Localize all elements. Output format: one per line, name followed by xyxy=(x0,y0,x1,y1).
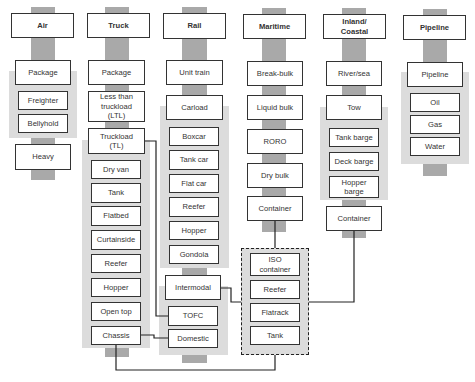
mode-header-truck: Truck xyxy=(87,13,150,38)
mode-header-inland-coastal: Inland/ Coastal xyxy=(323,14,386,39)
maritime-dry-bulk: Dry bulk xyxy=(247,163,303,188)
rail-domestic: Domestic xyxy=(168,329,218,348)
pipeline-oil: Oil xyxy=(410,93,460,112)
rail-reefer: Reefer xyxy=(169,197,219,217)
maritime-container: Container xyxy=(247,196,303,221)
truck-hopper: Hopper xyxy=(91,278,141,297)
group-iso-container: ISO container xyxy=(250,253,300,276)
truck-dry-van: Dry van xyxy=(91,160,141,179)
group-tank: Tank xyxy=(250,326,300,345)
inland-tank-barge: Tank barge xyxy=(329,128,379,147)
truck-open-top: Open top xyxy=(91,302,141,321)
rail-boxcar: Boxcar xyxy=(169,127,219,146)
inland-container: Container xyxy=(326,206,382,231)
inland-deck-barge: Deck barge xyxy=(329,152,379,171)
inland-river-sea: River/sea xyxy=(326,61,382,86)
truck-reefer: Reefer xyxy=(91,254,141,273)
rail-hopper: Hopper xyxy=(169,221,219,240)
mode-header-air: Air xyxy=(11,13,74,38)
mode-header-pipeline: Pipeline xyxy=(403,15,466,40)
rail-gondola: Gondola xyxy=(169,245,219,264)
rail-carload: Carload xyxy=(166,95,223,120)
pipeline-water: Water xyxy=(410,137,460,156)
pipeline-gas: Gas xyxy=(410,115,460,134)
truck-tl: Truckload (TL) xyxy=(88,128,145,154)
air-heavy: Heavy xyxy=(15,144,71,170)
inland-hopper-barge: Hopper barge xyxy=(329,176,379,198)
truck-flatbed: Flatbed xyxy=(91,206,141,226)
maritime-break-bulk: Break-bulk xyxy=(247,61,303,86)
inland-tow: Tow xyxy=(326,95,382,120)
truck-curtainside: Curtainside xyxy=(91,230,141,250)
group-reefer: Reefer xyxy=(250,280,300,299)
group-flatrack: Flatrack xyxy=(250,303,300,322)
connector-lines xyxy=(0,0,475,382)
truck-chassis: Chassis xyxy=(91,326,141,345)
air-package: Package xyxy=(15,60,71,85)
rail-tofc: TOFC xyxy=(168,306,218,326)
rail-intermodal: Intermodal xyxy=(165,275,221,300)
mode-header-rail: Rail xyxy=(163,13,226,39)
air-freighter: Freighter xyxy=(18,91,68,110)
truck-tank: Tank xyxy=(91,183,141,203)
truck-ltl: Less than truckload (LTL) xyxy=(88,91,145,122)
rail-unit-train: Unit train xyxy=(166,60,223,85)
air-bellyhold: Bellyhold xyxy=(18,114,68,133)
truck-package: Package xyxy=(88,60,145,85)
rail-tank-car: Tank car xyxy=(169,150,219,170)
rail-flat-car: Flat car xyxy=(169,174,219,193)
maritime-liquid-bulk: Liquid bulk xyxy=(247,95,303,120)
maritime-roro: RORO xyxy=(247,129,303,154)
mode-header-maritime: Maritime xyxy=(243,14,306,39)
pipeline-pipeline: Pipeline xyxy=(407,62,463,87)
